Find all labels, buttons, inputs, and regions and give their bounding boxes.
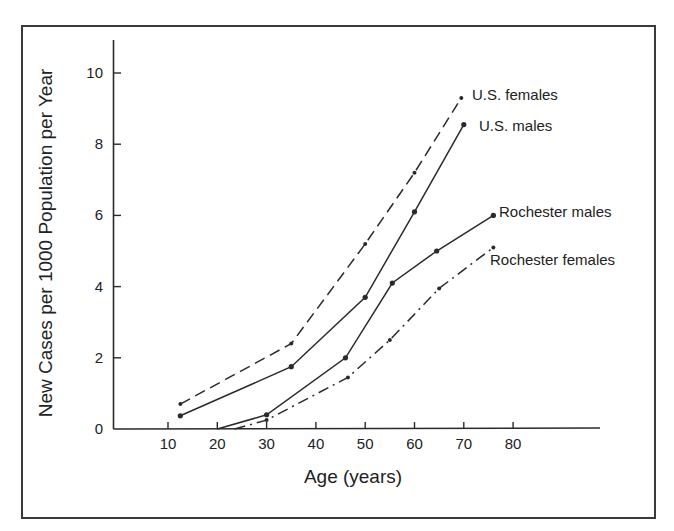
data-point-marker <box>491 213 496 218</box>
data-point-marker <box>265 418 269 422</box>
series-label: U.S. males <box>479 117 552 134</box>
x-tick-label: 40 <box>308 435 325 452</box>
x-ticks: 1020304050607080 <box>160 422 522 452</box>
data-point-marker <box>390 280 395 285</box>
series-label: Rochester males <box>499 203 612 220</box>
x-tick-label: 20 <box>209 435 226 452</box>
y-tick-label: 0 <box>95 420 103 437</box>
x-tick-label: 30 <box>258 435 275 452</box>
x-tick-label: 10 <box>160 435 177 452</box>
data-point-marker <box>388 338 392 342</box>
line-chart: 0246810 1020304050607080 U.S. femalesU.S… <box>0 0 674 531</box>
data-point-marker <box>178 413 183 418</box>
y-tick-label: 4 <box>95 278 103 295</box>
data-point-marker <box>289 364 294 369</box>
x-axis-line <box>114 428 601 429</box>
data-point-marker <box>459 96 463 100</box>
y-axis-title: New Cases per 1000 Population per Year <box>35 68 56 417</box>
data-point-marker <box>491 245 495 249</box>
series-rochester-females: Rochester females <box>235 245 615 429</box>
y-tick-label: 6 <box>95 206 103 223</box>
data-point-marker <box>289 342 293 346</box>
data-point-marker <box>413 171 417 175</box>
series-line <box>180 125 464 416</box>
x-tick-label: 50 <box>357 435 374 452</box>
series-line <box>217 215 493 429</box>
y-tick-label: 2 <box>95 349 103 366</box>
data-point-marker <box>346 375 350 379</box>
series-line <box>180 98 461 404</box>
series-line <box>235 247 494 429</box>
x-axis-title: Age (years) <box>304 466 402 487</box>
series-u-s-females: U.S. females <box>178 86 558 406</box>
data-point-marker <box>461 122 466 127</box>
x-tick-label: 70 <box>455 435 472 452</box>
y-tick-label: 8 <box>95 135 103 152</box>
data-point-marker <box>434 248 439 253</box>
data-point-marker <box>412 209 417 214</box>
y-tick-label: 10 <box>86 64 103 81</box>
data-point-marker <box>343 355 348 360</box>
series-rochester-males: Rochester males <box>217 203 611 429</box>
data-point-marker <box>437 286 441 290</box>
series-label: Rochester females <box>490 251 615 268</box>
data-point-marker <box>178 402 182 406</box>
data-point-marker <box>363 242 367 246</box>
x-tick-label: 60 <box>406 435 423 452</box>
data-point-marker <box>363 295 368 300</box>
series-layer: U.S. femalesU.S. malesRochester malesRoc… <box>178 86 615 429</box>
data-point-marker <box>264 412 269 417</box>
x-tick-label: 80 <box>505 435 522 452</box>
series-label: U.S. females <box>472 86 558 103</box>
y-ticks: 0246810 <box>86 64 121 437</box>
